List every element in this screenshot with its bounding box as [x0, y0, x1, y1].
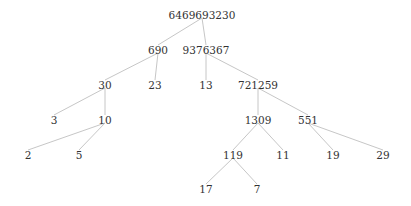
tree-node: 11	[276, 149, 289, 161]
tree-node: 1309	[245, 114, 272, 126]
tree-edge	[202, 18, 206, 45]
tree-edge	[258, 88, 308, 115]
tree-node: 3	[51, 114, 58, 126]
tree-node: 6469693230	[169, 9, 236, 21]
tree-edge	[105, 53, 158, 80]
tree-edge	[79, 123, 105, 150]
tree-node: 119	[223, 149, 243, 161]
tree-edge	[155, 53, 158, 80]
tree-node: 9376367	[183, 44, 230, 56]
tree-edge	[28, 123, 105, 150]
tree-edge	[206, 53, 258, 80]
tree-edge	[206, 158, 233, 184]
tree-node: 690	[148, 44, 168, 56]
tree-edge	[54, 88, 105, 115]
tree-node: 30	[98, 79, 111, 91]
tree-node: 5	[76, 149, 83, 161]
tree-node: 2	[25, 149, 32, 161]
tree-edge	[308, 123, 333, 150]
factor-tree: 6469693230690937636730231372125931013095…	[0, 0, 411, 206]
tree-node: 19	[326, 149, 339, 161]
tree-edge	[158, 18, 202, 45]
tree-node: 13	[199, 79, 212, 91]
tree-edge	[233, 158, 257, 184]
tree-node: 29	[376, 149, 389, 161]
tree-node: 7	[254, 183, 261, 195]
tree-node: 17	[199, 183, 212, 195]
tree-node: 23	[148, 79, 161, 91]
tree-nodes: 6469693230690937636730231372125931013095…	[25, 9, 390, 195]
tree-edge	[308, 123, 383, 150]
tree-node: 10	[98, 114, 111, 126]
tree-edge	[233, 123, 258, 150]
tree-node: 721259	[238, 79, 278, 91]
tree-edge	[258, 123, 283, 150]
tree-node: 551	[298, 114, 318, 126]
